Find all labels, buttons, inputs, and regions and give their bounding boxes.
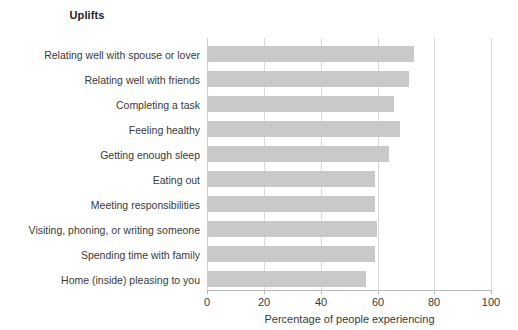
bar[interactable] [207, 71, 409, 87]
category-label: Completing a task [0, 99, 200, 111]
tick-mark-60 [378, 290, 379, 294]
chart-title: Uplifts [0, 9, 346, 21]
x-tick-label-80: 80 [414, 296, 454, 308]
category-label: Relating well with spouse or lover [0, 49, 200, 61]
bar[interactable] [207, 96, 394, 112]
tick-mark-80 [434, 290, 435, 294]
bar-row[interactable] [207, 246, 491, 262]
bar[interactable] [207, 221, 377, 237]
category-label: Relating well with friends [0, 74, 200, 86]
plot-area [207, 38, 491, 290]
x-axis-line [207, 290, 492, 291]
category-label: Home (inside) pleasing to you [0, 274, 200, 286]
bar[interactable] [207, 146, 389, 162]
category-label: Meeting responsibilities [0, 199, 200, 211]
bar-row[interactable] [207, 146, 491, 162]
category-label: Spending time with family [0, 249, 200, 261]
bar-row[interactable] [207, 121, 491, 137]
tick-mark-20 [264, 290, 265, 294]
bar-row[interactable] [207, 171, 491, 187]
bar-row[interactable] [207, 96, 491, 112]
category-label: Getting enough sleep [0, 149, 200, 161]
bar[interactable] [207, 171, 375, 187]
bar[interactable] [207, 246, 375, 262]
tick-mark-100 [491, 290, 492, 294]
x-tick-label-0: 0 [187, 296, 227, 308]
bar-row[interactable] [207, 221, 491, 237]
tick-mark-40 [321, 290, 322, 294]
x-tick-label-100: 100 [471, 296, 511, 308]
x-tick-label-40: 40 [301, 296, 341, 308]
category-label: Visiting, phoning, or writing someone [0, 224, 200, 236]
bar-row[interactable] [207, 271, 491, 287]
tick-mark-0 [207, 290, 208, 294]
bar-row[interactable] [207, 71, 491, 87]
x-axis-label: Percentage of people experiencing [207, 313, 492, 325]
bar[interactable] [207, 196, 375, 212]
category-label: Eating out [0, 174, 200, 186]
category-label: Feeling healthy [0, 124, 200, 136]
x-tick-label-60: 60 [358, 296, 398, 308]
bar-chart: Uplifts [0, 0, 518, 330]
bar-row[interactable] [207, 196, 491, 212]
gridline-100 [491, 38, 492, 290]
bar-row[interactable] [207, 46, 491, 62]
bar[interactable] [207, 271, 366, 287]
bar[interactable] [207, 46, 414, 62]
bar[interactable] [207, 121, 400, 137]
x-tick-label-20: 20 [244, 296, 284, 308]
